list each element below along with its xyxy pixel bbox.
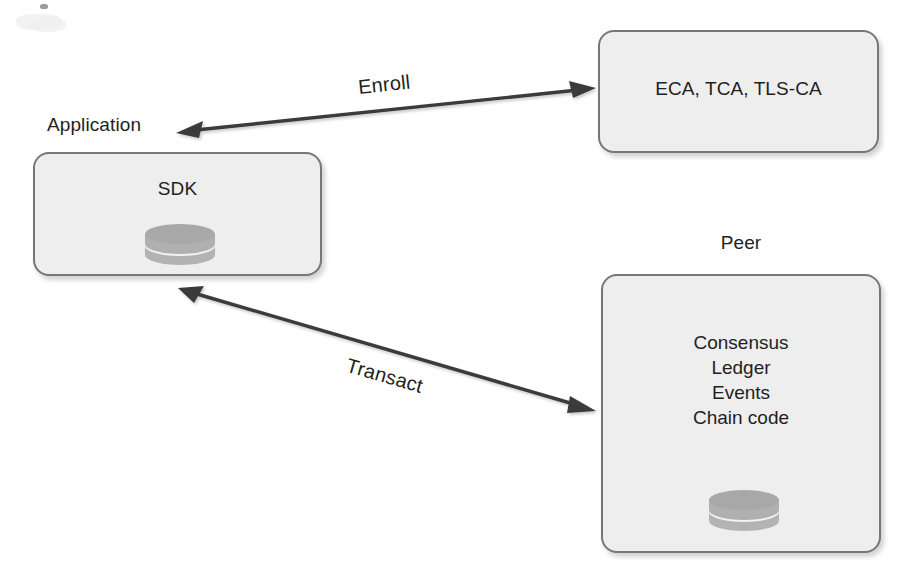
database-disk-icon xyxy=(143,222,217,266)
edge-label-transact: Transact xyxy=(344,354,426,398)
node-application[interactable]: SDK xyxy=(33,152,322,276)
scan-artifact xyxy=(30,18,66,32)
peer-component-events: Events xyxy=(603,380,879,405)
edge-label-enroll: Enroll xyxy=(357,71,411,99)
application-caption: Application xyxy=(47,114,141,136)
peer-component-consensus: Consensus xyxy=(603,330,879,355)
peer-component-chaincode: Chain code xyxy=(603,405,879,430)
peer-caption: Peer xyxy=(601,232,881,254)
node-certificate-authorities[interactable]: ECA, TCA, TLS-CA xyxy=(598,30,879,153)
sdk-label: SDK xyxy=(35,178,320,200)
node-peer[interactable]: Consensus Ledger Events Chain code xyxy=(601,274,881,553)
scan-artifact xyxy=(40,4,48,9)
database-disk-icon xyxy=(707,488,781,532)
peer-component-ledger: Ledger xyxy=(603,355,879,380)
edge-transact xyxy=(178,286,596,413)
diagram-canvas: Enroll Transact Application SDK ECA, TCA… xyxy=(0,0,919,584)
peer-component-list: Consensus Ledger Events Chain code xyxy=(603,330,879,430)
ca-label: ECA, TCA, TLS-CA xyxy=(600,78,877,100)
